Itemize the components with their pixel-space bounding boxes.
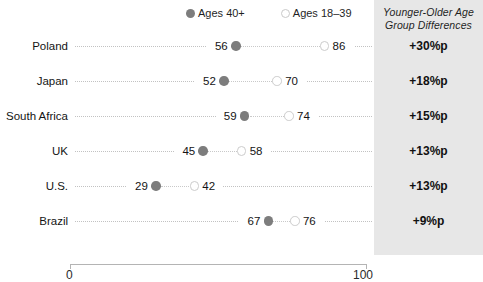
value-label-younger: 86 [333, 40, 355, 52]
data-point-older[interactable] [198, 146, 208, 156]
data-point-younger[interactable] [272, 76, 282, 86]
data-point-older[interactable] [219, 76, 229, 86]
value-label-younger: 58 [250, 145, 272, 157]
value-label-younger: 42 [202, 180, 224, 192]
value-label-older: 56 [208, 40, 228, 52]
dumbbell-connector [161, 186, 189, 187]
chart-row: 5686Poland [0, 35, 374, 57]
data-point-older[interactable] [231, 41, 241, 51]
difference-panel-title: Younger-Older Age Group Differences [374, 6, 483, 32]
value-label-younger: 74 [297, 110, 319, 122]
value-label-older: 29 [128, 180, 148, 192]
category-label: Brazil [39, 215, 68, 227]
data-point-older[interactable] [240, 111, 250, 121]
x-axis-label-max: 100 [353, 268, 373, 282]
difference-value: +30%p [374, 39, 483, 53]
difference-panel: Younger-Older Age Group Differences +30%… [374, 0, 483, 255]
value-label-older: 52 [196, 75, 216, 87]
dumbbell-connector [208, 151, 236, 152]
chart-plot-area: 5686Poland5270Japan5974South Africa4558U… [0, 0, 374, 282]
value-label-younger: 70 [285, 75, 307, 87]
chart-row: 2942U.S. [0, 175, 374, 197]
data-point-younger[interactable] [320, 41, 330, 51]
dumbbell-connector [250, 116, 284, 117]
difference-value: +18%p [374, 74, 483, 88]
chart-row: 6776Brazil [0, 210, 374, 232]
data-point-younger[interactable] [237, 146, 247, 156]
category-label: U.S. [46, 180, 68, 192]
category-label: South Africa [6, 110, 68, 122]
dumbbell-connector [229, 81, 272, 82]
value-label-younger: 76 [303, 215, 325, 227]
difference-value: +13%p [374, 179, 483, 193]
data-point-older[interactable] [264, 216, 274, 226]
category-label: Japan [37, 75, 68, 87]
data-point-older[interactable] [151, 181, 161, 191]
category-label: Poland [32, 40, 68, 52]
dumbbell-connector [241, 46, 320, 47]
difference-value: +9%p [374, 214, 483, 228]
value-label-older: 67 [240, 215, 260, 227]
dumbbell-connector [273, 221, 290, 222]
difference-value: +15%p [374, 109, 483, 123]
data-point-younger[interactable] [290, 216, 300, 226]
category-label: UK [52, 145, 68, 157]
x-axis-line [70, 264, 366, 265]
chart-row: 5270Japan [0, 70, 374, 92]
row-leader-line [75, 221, 372, 222]
data-point-younger[interactable] [284, 111, 294, 121]
chart-row: 5974South Africa [0, 105, 374, 127]
value-label-older: 59 [217, 110, 237, 122]
data-point-younger[interactable] [190, 181, 200, 191]
chart-row: 4558UK [0, 140, 374, 162]
value-label-older: 45 [175, 145, 195, 157]
x-axis-label-min: 0 [66, 268, 73, 282]
difference-value: +13%p [374, 144, 483, 158]
